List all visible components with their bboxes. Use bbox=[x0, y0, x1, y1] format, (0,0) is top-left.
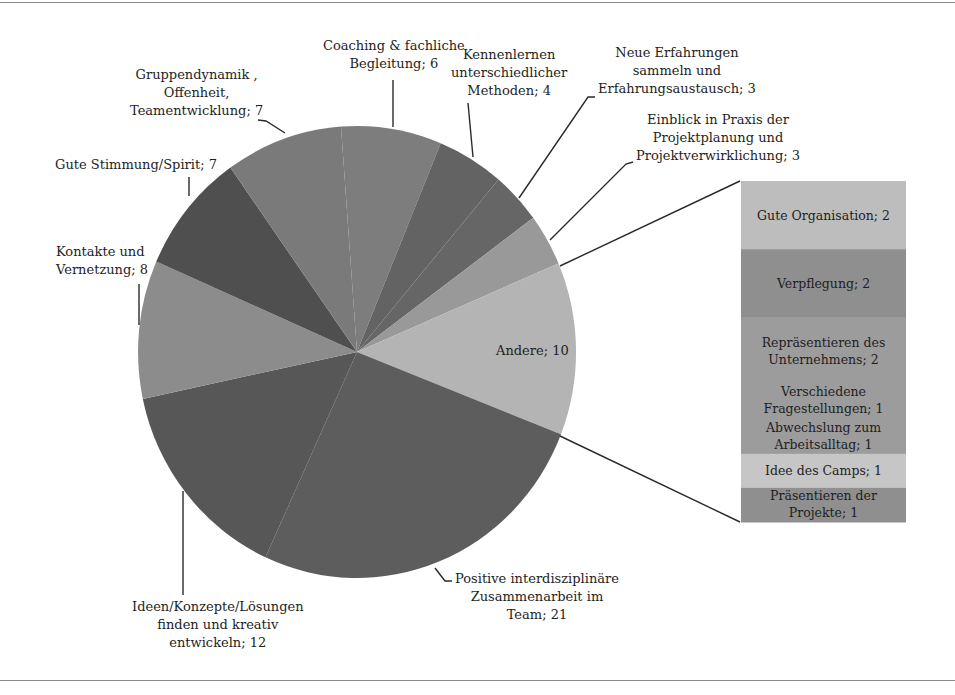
label-line: entwickeln; 12 bbox=[132, 634, 304, 652]
label-line: Projektverwirklichung; 3 bbox=[636, 147, 800, 165]
label-positive: Positive interdisziplinäre Zusammenarbei… bbox=[455, 570, 619, 624]
label-line: Positive interdisziplinäre bbox=[455, 570, 619, 588]
label-kennenlernen: Kennenlernen unterschiedlicher Methoden;… bbox=[451, 46, 567, 100]
bar-label-verschiedene: Verschiedene Fragestellungen; 1 bbox=[741, 382, 906, 418]
label-line: Abwechslung zum bbox=[741, 419, 906, 436]
connector-line-top bbox=[560, 181, 740, 266]
label-line: Projekte; 1 bbox=[741, 504, 906, 521]
label-line: Team; 21 bbox=[455, 606, 619, 624]
bar-label-gute-organisation: Gute Organisation; 2 bbox=[741, 181, 906, 249]
label-line: Teamentwicklung; 7 bbox=[130, 102, 263, 120]
label-line: Gute Stimmung/Spirit; 7 bbox=[55, 156, 217, 174]
label-stimmung: Gute Stimmung/Spirit; 7 bbox=[55, 156, 217, 174]
bar-label-idee-des-camps: Idee des Camps; 1 bbox=[741, 455, 906, 485]
label-line: Einblick in Praxis der bbox=[636, 111, 800, 129]
bar-label-verpflegung: Verpflegung; 2 bbox=[741, 249, 906, 317]
leader-line-kennenlernen bbox=[468, 103, 473, 157]
bar-label-abwechslung: Abwechslung zum Arbeitsalltag; 1 bbox=[741, 418, 906, 454]
connector-line-bottom bbox=[560, 436, 740, 522]
label-neue-erfahrungen: Neue Erfahrungen sammeln und Erfahrungsa… bbox=[598, 44, 756, 98]
label-gruppendynamik: Gruppendynamik , Offenheit, Teamentwickl… bbox=[130, 66, 263, 120]
label-line: Fragestellungen; 1 bbox=[741, 400, 906, 417]
leader-line-neue bbox=[519, 97, 595, 198]
label-line: Gruppendynamik , bbox=[130, 66, 263, 84]
label-line: Verpflegung; 2 bbox=[741, 275, 906, 292]
label-line: Coaching & fachliche bbox=[323, 37, 465, 55]
label-line: Andere; 10 bbox=[496, 342, 569, 360]
label-line: finden und kreativ bbox=[132, 616, 304, 634]
label-line: Unternehmens; 2 bbox=[741, 351, 906, 368]
label-line: Projektplanung und bbox=[636, 129, 800, 147]
label-line: Kennenlernen bbox=[451, 46, 567, 64]
label-coaching: Coaching & fachliche Begleitung; 6 bbox=[323, 37, 465, 73]
label-line: unterschiedlicher bbox=[451, 64, 567, 82]
label-line: Repräsentieren des bbox=[741, 334, 906, 351]
label-line: Neue Erfahrungen bbox=[598, 44, 756, 62]
bar-label-praesentieren: Präsentieren der Projekte; 1 bbox=[741, 486, 906, 522]
label-line: Methoden; 4 bbox=[451, 82, 567, 100]
label-ideen: Ideen/Konzepte/Lösungen finden und kreat… bbox=[132, 598, 304, 652]
label-line: Ideen/Konzepte/Lösungen bbox=[132, 598, 304, 616]
label-line: Begleitung; 6 bbox=[323, 55, 465, 73]
label-line: Gute Organisation; 2 bbox=[741, 207, 906, 224]
leader-line-positive bbox=[435, 568, 452, 581]
label-line: Verschiedene bbox=[741, 383, 906, 400]
label-line: Idee des Camps; 1 bbox=[741, 462, 906, 479]
leader-line-einblick bbox=[550, 162, 633, 240]
label-andere: Andere; 10 bbox=[496, 342, 569, 360]
label-line: Zusammenarbeit im bbox=[455, 588, 619, 606]
leader-line-gruppen bbox=[258, 120, 285, 133]
label-einblick: Einblick in Praxis der Projektplanung un… bbox=[636, 111, 800, 165]
label-line: Offenheit, bbox=[130, 84, 263, 102]
label-line: Präsentieren der bbox=[741, 487, 906, 504]
label-line: sammeln und bbox=[598, 62, 756, 80]
bar-label-repraesentieren: Repräsentieren des Unternehmens; 2 bbox=[741, 326, 906, 376]
label-line: Kontakte und bbox=[56, 243, 148, 261]
label-line: Arbeitsalltag; 1 bbox=[741, 436, 906, 453]
label-line: Vernetzung; 8 bbox=[56, 261, 148, 279]
label-kontakte: Kontakte und Vernetzung; 8 bbox=[56, 243, 148, 279]
label-line: Erfahrungsaustausch; 3 bbox=[598, 80, 756, 98]
